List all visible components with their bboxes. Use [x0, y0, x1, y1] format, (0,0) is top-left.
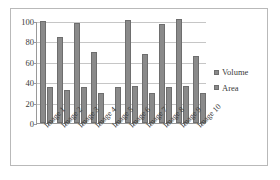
legend-label: Volume	[222, 68, 248, 77]
y-tick-label: 0	[6, 120, 34, 129]
y-tick-label: 100	[6, 18, 34, 27]
y-tick-label: 60	[6, 59, 34, 68]
y-tick-mark	[34, 104, 37, 105]
x-axis: Image 1Image 2Image 3Image 4Image 5Image…	[36, 124, 208, 166]
y-tick-label: 20	[6, 99, 34, 108]
bar-group	[40, 22, 53, 123]
y-tick-mark	[34, 42, 37, 43]
legend-swatch-icon	[214, 85, 219, 90]
y-tick-mark	[34, 83, 37, 84]
bar-volume	[40, 21, 46, 123]
y-tick-mark	[34, 22, 37, 23]
legend-label: Area	[222, 84, 239, 93]
legend-item-volume[interactable]: Volume	[214, 68, 268, 77]
y-tick-label: 80	[6, 38, 34, 47]
y-tick-label: 40	[6, 79, 34, 88]
chart-screenshot: 020406080100 Image 1Image 2Image 3Image …	[0, 0, 280, 180]
y-tick-mark	[34, 63, 37, 64]
legend-item-area[interactable]: Area	[214, 84, 268, 93]
legend-swatch-icon	[214, 70, 219, 75]
chart-legend: VolumeArea	[214, 68, 268, 99]
y-axis: 020406080100	[4, 22, 34, 124]
